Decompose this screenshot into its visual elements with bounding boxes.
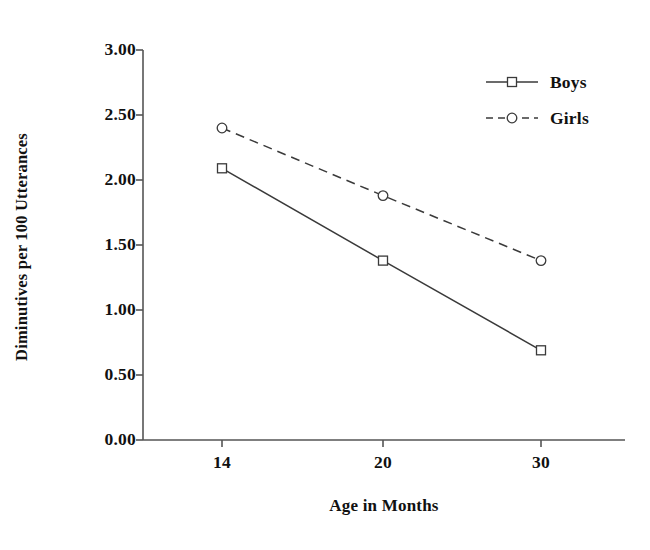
y-axis-ticks — [136, 50, 143, 440]
data-point-marker-girls — [378, 191, 388, 201]
data-series-layer — [217, 123, 546, 355]
data-point-marker-boys — [537, 346, 546, 355]
legend-swatch-boys — [484, 72, 540, 92]
x-axis-ticks — [222, 440, 541, 447]
data-point-marker-boys — [218, 164, 227, 173]
legend-item-girls[interactable]: Girls — [484, 100, 634, 136]
data-point-marker-girls — [536, 256, 546, 266]
chart-figure: Diminutives per 100 Utterances 0.000.501… — [0, 0, 650, 550]
x-axis-title: Age in Months — [143, 496, 625, 516]
data-point-marker-boys — [379, 256, 388, 265]
data-point-marker-girls — [217, 123, 227, 133]
chart-legend: BoysGirls — [484, 64, 634, 136]
legend-swatch-girls — [484, 108, 540, 128]
legend-item-boys[interactable]: Boys — [484, 64, 634, 100]
legend-label: Girls — [540, 108, 589, 129]
data-point-marker-girls — [507, 113, 517, 123]
data-point-marker-boys — [508, 78, 517, 87]
legend-label: Boys — [540, 72, 587, 93]
